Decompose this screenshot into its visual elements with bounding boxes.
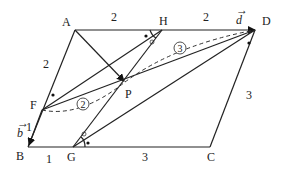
length-label-CD: 3 [246,88,252,102]
vector-AP [75,30,124,81]
length-label-HD: 2 [203,10,209,24]
ratio-label-FP: 2 [81,99,86,110]
angle-dot-D [247,41,250,44]
point-label-B: B [16,149,24,163]
angle-dot-H [144,34,147,37]
angle-dot-F [51,93,54,96]
vector-arrow-b: → [17,116,29,130]
point-label-F: F [30,98,37,112]
point-label-D: D [262,14,271,28]
point-label-G: G [67,150,76,164]
segment-GH [73,30,162,147]
length-label-BG: 1 [46,152,52,166]
angle-dot-G [86,141,89,144]
length-label-AH: 2 [111,10,117,24]
point-label-C: C [207,150,215,164]
point-label-H: H [159,14,168,28]
vector-arrow-d: → [236,3,248,17]
segment-FH [42,30,162,110]
parallelogram-diagram: 2 3 A H D B G C F P 2 2 2 1 1 3 3 d → b … [0,0,284,171]
length-label-AF: 2 [43,57,49,71]
point-label-A: A [62,15,71,29]
point-label-P: P [125,87,132,101]
ratio-label-PD: 3 [178,43,183,54]
length-label-GC: 3 [142,150,148,164]
